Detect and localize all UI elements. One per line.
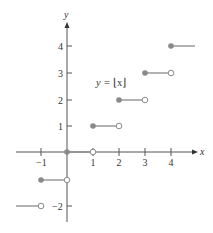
x-tick-label: 2 xyxy=(117,157,122,168)
y-tick-label: 4 xyxy=(58,41,63,52)
axes xyxy=(16,22,198,222)
open-dot-icon xyxy=(90,149,96,155)
open-dot-icon xyxy=(116,123,122,129)
floor-function-chart: −1 1 2 3 4 −2 1 2 3 4 x y y = ⌊x⌋ xyxy=(0,0,213,233)
open-dots xyxy=(38,70,174,209)
x-tick-label: 1 xyxy=(91,157,96,168)
closed-dot-icon xyxy=(38,177,44,183)
closed-dot-icon xyxy=(90,123,96,129)
open-dot-icon xyxy=(38,203,44,209)
y-tick-label: −2 xyxy=(52,201,63,212)
closed-dot-icon xyxy=(168,43,174,49)
closed-dot-icon xyxy=(64,149,70,155)
x-tick-label: 4 xyxy=(169,157,174,168)
open-dot-icon xyxy=(142,97,148,103)
equation-label: y = ⌊x⌋ xyxy=(95,77,126,88)
open-dot-icon xyxy=(64,177,70,183)
x-axis-label: x xyxy=(199,146,205,157)
y-tick-label: 1 xyxy=(58,121,63,132)
open-dot-icon xyxy=(168,70,174,76)
equation-lhs: y = xyxy=(95,77,113,88)
y-axis-arrow-icon xyxy=(65,22,70,28)
y-tick-label: 2 xyxy=(58,95,63,106)
closed-dot-icon xyxy=(142,70,148,76)
x-axis-arrow-icon xyxy=(192,150,198,155)
y-tick-label: 3 xyxy=(58,68,63,79)
closed-dot-icon xyxy=(116,97,122,103)
closed-dots xyxy=(38,43,174,183)
y-axis-label: y xyxy=(63,9,69,20)
equation-rhs: ⌊x⌋ xyxy=(113,77,126,88)
x-tick-label: 3 xyxy=(143,157,148,168)
x-tick-label: −1 xyxy=(36,157,47,168)
